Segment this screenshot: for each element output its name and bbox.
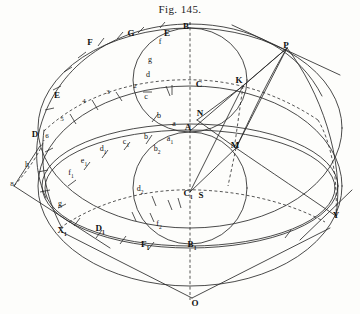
division-label-d1: d1 — [100, 145, 107, 155]
construction-drawing — [0, 0, 360, 314]
dashed-right-arc — [318, 120, 336, 214]
point-label-F1-sub: 1 — [146, 245, 149, 251]
point-label-Y: Y — [333, 211, 340, 220]
figure-canvas: Fig. 145. — [0, 0, 360, 314]
division-label-d: d — [146, 71, 150, 79]
division-label-b2-sub: 2 — [158, 149, 161, 155]
division-label-a1: a1 — [167, 135, 173, 145]
division-label-c: c — [144, 93, 148, 101]
point-label-M: M — [231, 141, 240, 150]
division-label-f1: f1 — [68, 169, 73, 179]
division-number-4: 4 — [82, 98, 86, 105]
point-label-C1: C1 — [183, 189, 192, 200]
division-label-b: b — [157, 112, 161, 120]
point-label-D1-sub: 1 — [102, 229, 105, 235]
division-label-e1-sub: 1 — [84, 161, 87, 167]
division-number-6: 6 — [45, 133, 49, 140]
line-n-k — [197, 86, 243, 120]
point-label-B1-sub: 1 — [194, 245, 197, 251]
arc-upper-right — [190, 24, 322, 96]
division-number-3: 3 — [106, 89, 110, 96]
point-label-F1: F1 — [141, 240, 149, 251]
tangent-line-at-x1 — [14, 186, 110, 248]
division-label-g: g — [148, 56, 152, 64]
point-label-E-left: E — [54, 91, 60, 100]
point-label-N: N — [197, 109, 204, 118]
point-label-C: C — [196, 80, 203, 89]
point-label-K: K — [235, 76, 242, 85]
point-label-X1-sub: 1 — [64, 231, 67, 237]
point-label-G: G — [127, 29, 134, 38]
division-label-f2-sub: 2 — [159, 224, 162, 230]
point-label-O: O — [191, 299, 198, 308]
division-label-g-mid: g — [58, 200, 62, 208]
line-s-m — [190, 148, 236, 192]
dashed-arc-upper — [44, 80, 318, 131]
point-label-B1: B1 — [188, 240, 197, 251]
division-label-c1: c1 — [123, 138, 129, 148]
division-label-f2: f2 — [156, 220, 161, 230]
point-label-C1-sub: 1 — [190, 194, 193, 200]
right-meridian-arc — [287, 48, 338, 216]
division-number-8: 8 — [10, 181, 14, 188]
division-label-e1: e1 — [81, 157, 87, 167]
division-label-d2: d2 — [137, 185, 144, 195]
tangent-line-at-y — [300, 190, 352, 240]
division-label-b-mid: b — [144, 133, 148, 141]
division-label-f: f — [159, 38, 162, 46]
division-label-a1-sub: 1 — [170, 139, 173, 145]
point-label-F: F — [87, 38, 93, 47]
point-label-B: B — [183, 22, 189, 31]
division-label-f1-sub: 1 — [71, 173, 74, 179]
point-label-D1: D1 — [95, 224, 104, 235]
point-label-X1: X1 — [57, 226, 66, 237]
point-label-D: D — [32, 130, 39, 139]
division-label-d2-sub: 2 — [141, 189, 144, 195]
point-label-E-top: E — [164, 29, 170, 38]
line-p-k — [243, 48, 287, 86]
point-label-A: A — [185, 123, 192, 132]
dashed-m-drop — [228, 148, 236, 186]
division-label-d1-sub: 1 — [104, 149, 107, 155]
division-label-a: a — [172, 120, 176, 128]
division-label-c1-sub: 1 — [126, 142, 129, 148]
arc-upper-left — [37, 24, 190, 198]
division-number-5: 5 — [60, 116, 64, 123]
division-number-2: 2 — [133, 83, 137, 90]
division-label-b2: b2 — [154, 145, 161, 155]
division-label-h: h — [25, 161, 29, 169]
point-label-P: P — [283, 41, 289, 50]
point-label-S: S — [198, 191, 203, 200]
